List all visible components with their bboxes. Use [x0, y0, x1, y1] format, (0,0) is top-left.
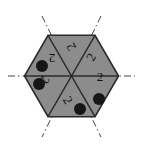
- symmetry-dot: [74, 103, 86, 115]
- figure-root: 222222: [0, 0, 143, 154]
- symmetry-dot: [93, 93, 105, 105]
- symmetry-dot: [36, 60, 48, 72]
- sector-label-right: 2: [97, 69, 104, 84]
- sector-label-left: 2: [49, 51, 56, 66]
- hexagon-symmetry-diagram: 222222: [0, 0, 143, 154]
